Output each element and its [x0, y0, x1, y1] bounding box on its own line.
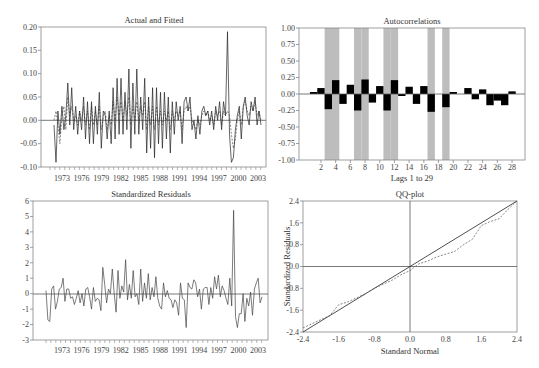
x-tick-label: 1973 — [54, 346, 70, 355]
y-tick-label: 0.00 — [281, 90, 295, 99]
acf-bar — [486, 94, 493, 105]
y-tick-label: 5 — [25, 212, 29, 221]
acf-bar — [420, 86, 427, 94]
y-tick-label: 0.05 — [23, 93, 37, 102]
x-tick-label: 14 — [405, 163, 413, 172]
acf-bar — [317, 88, 324, 94]
panel-standardized-residuals: Standardized Residuals 6543210-1-2-3 197… — [22, 189, 268, 355]
y-tick-label: -1.6 — [286, 306, 299, 315]
panel-qq-plot: QQ-plot 2.41.60.80.0-0.8-1.6-2.4 -2.4-1.… — [282, 189, 522, 356]
x-tick-label: 2003 — [250, 346, 266, 355]
acf-bar — [472, 94, 479, 99]
acf-bar — [494, 94, 501, 101]
y-tick-label: -1.00 — [278, 156, 295, 165]
acf-bar — [332, 80, 339, 94]
x-tick-label: 1985 — [132, 346, 148, 355]
x-axis-title: Standard Normal — [381, 346, 440, 356]
x-tick-label: 1997 — [211, 346, 227, 355]
acf-bar — [383, 94, 390, 111]
y-tick-label: -2 — [22, 320, 29, 329]
x-tick-label: 1982 — [113, 346, 129, 355]
y-tick-label: -0.10 — [20, 163, 37, 172]
x-axis-title: Lags 1 to 29 — [391, 173, 433, 183]
y-tick-label: 1 — [25, 274, 29, 283]
x-tick-label: 10 — [376, 163, 384, 172]
x-tick-label: 2 — [319, 163, 323, 172]
y-tick-label: -0.50 — [278, 123, 295, 132]
x-tick-label: 18 — [435, 163, 443, 172]
x-tick-label: 1979 — [93, 346, 109, 355]
x-axis: 1973197619791982198519881991199419972000… — [50, 167, 266, 183]
x-tick-label: 16 — [420, 163, 428, 172]
acf-bar — [428, 94, 435, 112]
y-tick-label: 0.15 — [23, 46, 37, 55]
x-tick-label: -1.6 — [332, 335, 345, 344]
y-tick-label: 2 — [25, 259, 29, 268]
y-tick-label: -1 — [22, 305, 29, 314]
y-tick-label: 0 — [25, 289, 29, 298]
x-tick-label: 1979 — [93, 174, 109, 183]
y-tick-label: -0.75 — [278, 139, 295, 148]
panel-actual-fitted: Actual and Fitted 0.200.150.100.050.00-0… — [20, 15, 266, 183]
x-tick-label: 1973 — [54, 174, 70, 183]
x-tick-label: 26 — [493, 163, 501, 172]
y-tick-label: 0.20 — [23, 23, 37, 32]
x-tick-label: 0.0 — [405, 335, 415, 344]
panel-title: Standardized Residuals — [111, 189, 191, 199]
panel-title: Actual and Fitted — [124, 15, 184, 25]
y-tick-label: 0.75 — [281, 40, 295, 49]
x-tick-label: 24 — [479, 163, 487, 172]
y-tick-label: 1.00 — [281, 24, 295, 33]
y-tick-label: 6 — [25, 197, 29, 206]
actual-series — [54, 32, 261, 163]
panel-autocorrelations: Autocorrelations 1.000.750.500.250.00-0.… — [278, 16, 525, 183]
y-tick-label: 3 — [25, 243, 29, 252]
x-tick-label: 1982 — [113, 174, 129, 183]
x-axis: 246810121416182022242628 — [319, 160, 516, 172]
x-tick-label: 2.4 — [512, 335, 522, 344]
y-tick-label: 0.25 — [281, 73, 295, 82]
x-tick-label: -0.8 — [368, 335, 381, 344]
x-tick-label: 2000 — [230, 346, 246, 355]
acf-bar — [354, 94, 361, 111]
panel-title: QQ-plot — [396, 189, 425, 199]
x-tick-label: 1976 — [74, 346, 90, 355]
x-tick-label: 1991 — [172, 346, 188, 355]
acf-bar — [369, 94, 376, 103]
x-tick-label: 12 — [390, 163, 398, 172]
x-tick-label: 1994 — [191, 346, 207, 355]
y-axis-title: Standardized Residuals — [282, 227, 292, 307]
acf-bar — [501, 94, 508, 105]
plot-frame — [41, 27, 266, 167]
acf-bar — [391, 80, 398, 94]
y-tick-label: -0.05 — [20, 139, 37, 148]
y-axis: 1.000.750.500.250.00-0.25-0.50-0.75-1.00 — [278, 24, 299, 165]
y-tick-label: 2.4 — [289, 197, 299, 206]
x-tick-label: 20 — [449, 163, 457, 172]
x-axis: 1973197619791982198519881991199419972000… — [46, 340, 266, 355]
x-tick-label: 1988 — [152, 346, 168, 355]
x-tick-label: 1985 — [132, 174, 148, 183]
x-tick-label: 1988 — [152, 174, 168, 183]
x-tick-label: 4 — [334, 163, 338, 172]
acf-bar — [361, 79, 368, 94]
y-tick-label: 4 — [25, 228, 29, 237]
x-tick-label: 1.6 — [476, 335, 486, 344]
x-tick-label: 2003 — [250, 174, 266, 183]
acf-bar — [376, 86, 383, 94]
acf-bar — [464, 88, 471, 94]
acf-bar — [339, 94, 346, 104]
x-tick-label: -2.4 — [297, 335, 310, 344]
acf-bar — [442, 94, 449, 107]
y-tick-label: -3 — [22, 336, 29, 345]
acf-bar — [479, 89, 486, 94]
x-tick-label: 28 — [508, 163, 516, 172]
acf-bar — [347, 85, 354, 94]
x-tick-label: 2000 — [230, 174, 246, 183]
acf-bar — [413, 94, 420, 104]
y-tick-label: -0.25 — [278, 106, 295, 115]
x-axis: -2.4-1.6-0.80.00.81.62.4 — [297, 335, 522, 344]
x-tick-label: 8 — [363, 163, 367, 172]
x-tick-label: 1994 — [191, 174, 207, 183]
x-tick-label: 1976 — [74, 174, 90, 183]
